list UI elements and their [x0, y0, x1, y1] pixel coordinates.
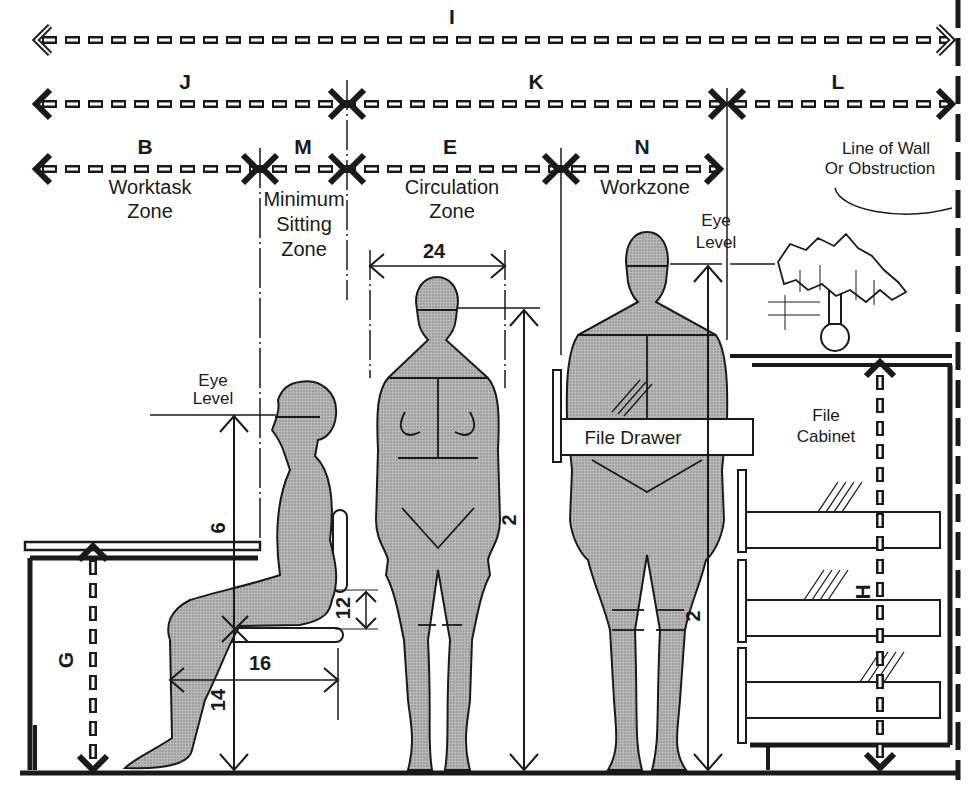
seated-eye-label-2: Level — [193, 389, 234, 408]
zone-letter-n: N — [634, 135, 649, 158]
file-drawer-label: File Drawer — [584, 427, 682, 448]
file-cabinet-label-2: Cabinet — [797, 427, 856, 446]
male-dim-2: 2 — [682, 610, 704, 621]
seated-dim-14: 14 — [207, 688, 229, 711]
zone-letter-l: L — [832, 70, 845, 93]
seated-eye-label-1: Eye — [198, 371, 227, 390]
zone-letter-k: K — [528, 70, 543, 93]
zone-name-workzone: Workzone — [600, 176, 690, 198]
seated-figure — [125, 381, 347, 768]
male-eye-label-1: Eye — [701, 211, 730, 230]
cabinet-height-letter-h: H — [851, 584, 874, 599]
zone-name-circulation: Circulation — [405, 176, 499, 198]
zone-letter-e: E — [443, 135, 457, 158]
zone-name-worktask-1: Worktask — [109, 176, 193, 198]
seated-dim-12: 12 — [332, 597, 354, 619]
wall-note-line1: Line of Wall — [842, 139, 930, 158]
female-dim-24: 24 — [423, 240, 446, 262]
plant-vase — [768, 234, 906, 351]
wall-note-line2: Or Obstruction — [825, 159, 936, 178]
zone-name-worktask-2: Zone — [127, 200, 173, 222]
dimension-line-g — [79, 546, 107, 770]
zone-letter-m: M — [294, 135, 312, 158]
zone-letter-j: J — [179, 70, 191, 93]
zone-letter-i: I — [449, 5, 455, 28]
wall-note-leader — [835, 188, 952, 214]
desk-height-letter-g: G — [54, 652, 77, 668]
dimension-line-i — [36, 26, 952, 54]
anthropometric-diagram: I J K L B Worktask Zone M Mi — [0, 0, 979, 797]
seated-dim-6: 6 — [207, 522, 229, 533]
file-cabinet-label-1: File — [812, 406, 839, 425]
zone-letter-b: B — [137, 135, 152, 158]
zone-name-sitting-zone: Zone — [281, 238, 327, 260]
zone-name-sitting: Sitting — [276, 213, 332, 235]
male-eye-label-2: Level — [696, 233, 737, 252]
zone-name-circulation-zone: Zone — [429, 200, 475, 222]
standing-female-figure — [376, 277, 500, 770]
female-dim-2: 2 — [498, 514, 520, 525]
file-cabinet — [730, 356, 952, 770]
dimension-line-jkl — [36, 80, 952, 340]
standing-male-figure — [567, 232, 727, 770]
zone-name-minimum: Minimum — [263, 188, 344, 210]
seated-dim-16: 16 — [249, 652, 271, 674]
